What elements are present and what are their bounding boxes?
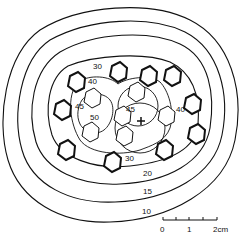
contour-label: 30 — [93, 62, 102, 71]
scale-bar: 0 1 2cm — [160, 217, 228, 234]
contour-label: 45 — [75, 102, 84, 111]
contour-diagram: 10 15 20 30 30 40 40 45 45 50 0 1 2cm — [0, 0, 241, 240]
contour-label: 30 — [125, 154, 134, 163]
contour-label: 10 — [142, 207, 151, 216]
scale-tick-0: 0 — [160, 225, 165, 234]
contour-label: 40 — [176, 105, 185, 114]
contour-label: 40 — [88, 77, 97, 86]
scale-tick-2: 2cm — [213, 225, 228, 234]
contour-label: 50 — [90, 113, 99, 122]
contour-label: 45 — [126, 105, 135, 114]
scale-tick-1: 1 — [187, 225, 192, 234]
contour-label: 20 — [143, 169, 152, 178]
center-cross-icon — [137, 117, 145, 125]
contour-label: 15 — [143, 187, 152, 196]
